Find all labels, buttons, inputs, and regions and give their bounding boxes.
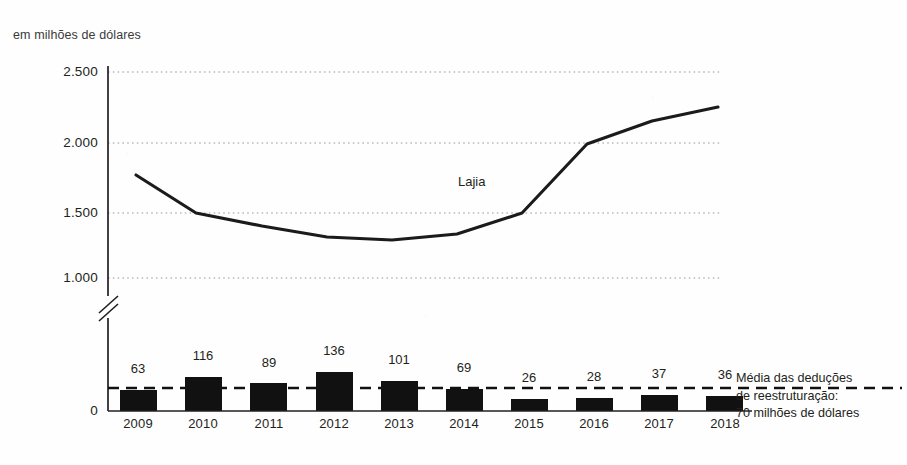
y-tick-2500: 2.500 [26, 64, 98, 79]
y-tick-1500: 1.500 [26, 205, 98, 220]
line-series-lajia [136, 107, 718, 240]
y-tick-0: 0 [26, 403, 98, 418]
series-inline-label: Lajia [458, 174, 486, 189]
bar-2017 [641, 395, 678, 411]
bar-value-2017: 37 [629, 366, 689, 381]
x-tick-2012: 2012 [304, 416, 364, 431]
bar-value-2009: 63 [108, 361, 168, 376]
x-tick-2013: 2013 [369, 416, 429, 431]
axis-break-icon [99, 296, 118, 321]
bar-value-2016: 28 [564, 369, 624, 384]
average-annotation-line1: Média das deduções [736, 370, 859, 388]
bar-2014 [446, 389, 483, 411]
x-tick-2011: 2011 [239, 416, 299, 431]
bar-2015 [511, 399, 548, 411]
bar-value-2015: 26 [499, 370, 559, 385]
bar-2016 [576, 398, 613, 411]
bar-2010 [185, 377, 222, 411]
bar-value-2013: 101 [369, 352, 429, 367]
x-tick-2009: 2009 [108, 416, 168, 431]
x-tick-2015: 2015 [499, 416, 559, 431]
bar-value-2011: 89 [239, 355, 299, 370]
bar-2009 [120, 390, 157, 411]
bar-value-2014: 69 [434, 360, 494, 375]
x-tick-2016: 2016 [564, 416, 624, 431]
y-tick-2000: 2.000 [26, 135, 98, 150]
bar-2012 [316, 372, 353, 411]
average-annotation-line2: de reestruturação: [736, 388, 859, 406]
x-tick-2017: 2017 [629, 416, 689, 431]
average-annotation: Média das deduções de reestruturação: 70… [736, 370, 859, 423]
average-annotation-line3: 70 milhões de dólares [736, 405, 859, 423]
x-tick-2014: 2014 [434, 416, 494, 431]
bar-2013 [381, 381, 418, 411]
bar-value-2010: 116 [173, 348, 233, 363]
gridlines-upper [108, 72, 722, 278]
bar-value-2012: 136 [304, 343, 364, 358]
y-tick-1000: 1.000 [26, 270, 98, 285]
chart-figure: em milhões de dólares Lajia [0, 0, 907, 465]
x-tick-2010: 2010 [173, 416, 233, 431]
